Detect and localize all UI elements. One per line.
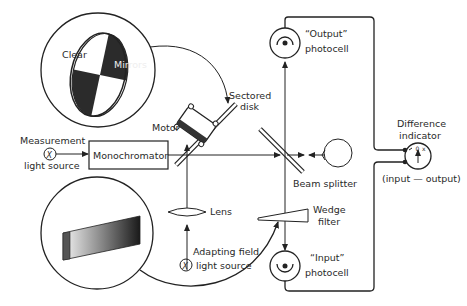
label-input-2: photocell: [305, 267, 349, 278]
label-monochromator: Monochromator: [93, 150, 168, 161]
svg-text:0: 0: [416, 145, 420, 152]
output-photocell-icon: [270, 28, 300, 58]
label-difference-2: indicator: [399, 130, 441, 141]
svg-text:X: X: [182, 262, 189, 271]
svg-text:x: x: [422, 145, 426, 152]
label-clear: Clear: [62, 49, 87, 60]
adapting-light-source-icon: X: [180, 259, 192, 271]
label-beam-splitter: Beam splitter: [293, 178, 357, 189]
input-photocell-icon: [270, 251, 300, 281]
comparison-lamp-icon: [322, 139, 352, 167]
wedge-filter: [258, 209, 308, 222]
beam-splitter: [260, 129, 303, 172]
label-difference-3: (input — output): [382, 173, 461, 184]
wedge-filter-inset: [41, 177, 153, 289]
motor-icon: [173, 103, 219, 148]
lens-icon: [168, 208, 206, 216]
label-input-1: “Input”: [310, 252, 345, 263]
label-output-2: photocell: [305, 43, 349, 54]
sectored-disk-inset: Clear Mirrors: [41, 13, 155, 127]
label-difference-1: Difference: [397, 118, 446, 129]
monochromator: Monochromator: [89, 141, 168, 169]
label-lens: Lens: [210, 206, 232, 217]
inset-pointer-arrow: [150, 46, 228, 103]
label-wedge-2: filter: [318, 216, 340, 227]
label-sectored-2: disk: [240, 101, 260, 112]
measurement-light-source-icon: X: [44, 148, 56, 160]
label-measurement-1: Measurement: [20, 135, 85, 146]
optical-diagram: Clear Mirrors Motor Sectored disk Measur…: [0, 0, 467, 306]
label-wedge-1: Wedge: [313, 204, 346, 215]
label-adapting-1: Adapting field: [193, 246, 259, 257]
svg-text:X: X: [46, 151, 53, 160]
label-sectored-1: Sectored: [229, 90, 271, 101]
label-motor: Motor: [152, 122, 180, 133]
label-mirrors: Mirrors: [114, 59, 147, 70]
label-output-1: “Output”: [305, 28, 348, 39]
difference-indicator-icon: 0 x: [403, 143, 431, 169]
label-measurement-2: light source: [24, 160, 80, 171]
